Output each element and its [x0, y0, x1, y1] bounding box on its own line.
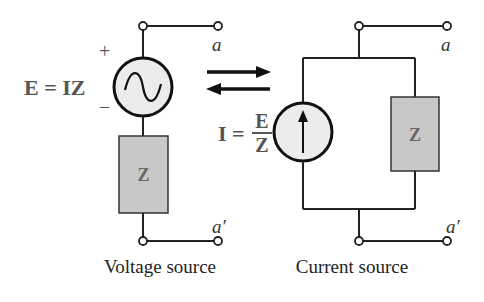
terminal-a-prime	[443, 237, 451, 245]
terminal-a-label: a	[212, 34, 222, 55]
terminal-a	[214, 22, 222, 30]
terminal-a-label: a	[441, 34, 451, 55]
source-conversion-diagram: Z a a′ + − E = IZ Voltage source	[0, 0, 484, 302]
current-equation-denominator: Z	[255, 134, 268, 156]
terminal-a-prime	[214, 237, 222, 245]
terminal-node	[355, 22, 363, 30]
bidirectional-arrows-icon	[206, 66, 271, 95]
terminal-node	[139, 237, 147, 245]
current-equation-numerator: E	[255, 110, 268, 132]
plus-sign: +	[99, 40, 110, 62]
terminal-node	[355, 237, 363, 245]
impedance-label: Z	[409, 125, 421, 145]
terminal-a	[443, 22, 451, 30]
ac-voltage-source-icon	[114, 58, 172, 116]
impedance-label: Z	[137, 165, 149, 185]
terminal-a-prime-label: a′	[446, 216, 461, 237]
voltage-equation: E = IZ	[24, 75, 85, 100]
terminal-a-prime-label: a′	[212, 216, 227, 237]
terminal-node	[139, 22, 147, 30]
minus-sign: −	[99, 96, 110, 118]
voltage-source-caption: Voltage source	[104, 256, 216, 277]
current-source-caption: Current source	[296, 256, 408, 277]
current-source-arrow-icon	[274, 103, 332, 161]
current-equation-lhs: I =	[218, 121, 245, 146]
current-source-circuit: Z a a′ I = E Z Current source	[218, 22, 461, 277]
voltage-source-circuit: Z a a′ + − E = IZ Voltage source	[24, 22, 227, 277]
